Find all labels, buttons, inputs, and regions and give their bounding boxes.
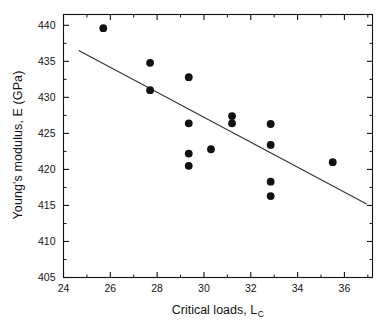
data-point	[185, 162, 193, 170]
y-tick-label: 420	[38, 163, 56, 175]
plot-canvas: 24262830323436 405410415420425430435440	[0, 0, 392, 330]
y-tick-label: 415	[38, 199, 56, 211]
scatter-chart-figure: Young's modulus, E (GPa) 24262830323436 …	[0, 0, 392, 330]
x-axis-label-subscript: C	[258, 309, 264, 319]
data-point	[185, 150, 193, 158]
x-axis-ticks	[64, 15, 368, 278]
y-axis-label-container: Young's modulus, E (GPa)	[0, 0, 36, 290]
data-point	[267, 178, 275, 186]
x-tick-label: 26	[104, 282, 116, 294]
y-tick-label: 425	[38, 127, 56, 139]
x-axis-label-text: Critical loads, L	[172, 303, 257, 317]
y-axis-tick-labels: 405410415420425430435440	[38, 19, 56, 283]
data-points-group	[99, 24, 336, 200]
x-tick-label: 34	[292, 282, 304, 294]
data-point	[185, 73, 193, 81]
y-tick-label: 405	[38, 271, 56, 283]
data-point	[185, 119, 193, 127]
data-point	[146, 59, 154, 67]
data-point	[207, 145, 215, 153]
x-tick-label: 32	[245, 282, 257, 294]
x-tick-label: 24	[58, 282, 70, 294]
data-point	[146, 86, 154, 94]
data-point	[228, 112, 236, 120]
regression-line	[79, 51, 367, 204]
x-tick-label: 30	[198, 282, 210, 294]
y-axis-ticks	[64, 25, 373, 277]
y-tick-label: 430	[38, 91, 56, 103]
x-axis-label: Critical loads, LC	[172, 303, 264, 317]
x-axis-tick-labels: 24262830323436	[58, 282, 351, 294]
y-axis-label: Young's modulus, E (GPa)	[11, 71, 25, 220]
y-tick-label: 410	[38, 235, 56, 247]
y-tick-label: 440	[38, 19, 56, 31]
data-point	[267, 192, 275, 200]
x-axis-label-container: Critical loads, LC	[63, 300, 372, 318]
data-point	[99, 24, 107, 32]
data-point	[329, 158, 337, 166]
data-point	[267, 141, 275, 149]
axes-frame	[64, 15, 373, 278]
data-point	[228, 119, 236, 127]
x-tick-label: 36	[339, 282, 351, 294]
x-tick-label: 28	[151, 282, 163, 294]
y-tick-label: 435	[38, 55, 56, 67]
data-point	[267, 120, 275, 128]
